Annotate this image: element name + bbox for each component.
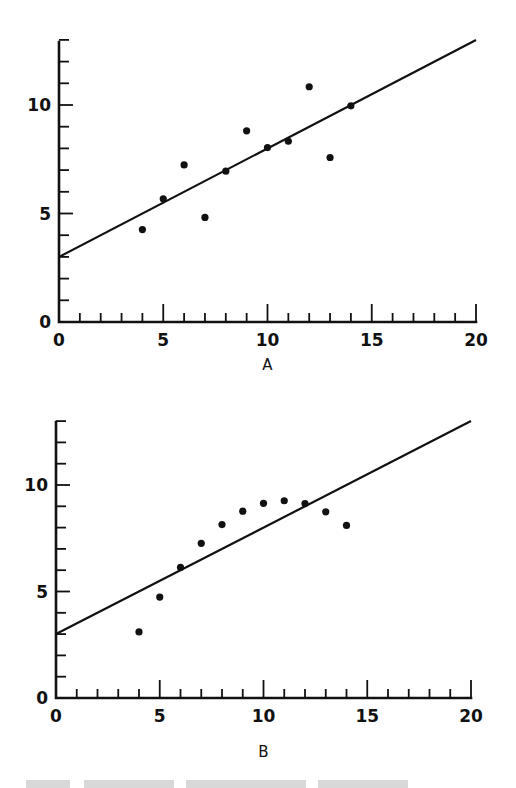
y-tick-label: 0 xyxy=(39,312,51,332)
chart-panel-a: 051015200510A xyxy=(27,40,488,374)
figure: 051015200510A 051015200510B xyxy=(0,0,516,788)
x-tick-label: 5 xyxy=(154,706,166,726)
y-tick-label: 0 xyxy=(36,688,48,708)
x-tick-label: 20 xyxy=(464,330,488,350)
data-point xyxy=(156,593,163,600)
panel-label: A xyxy=(262,356,273,374)
data-point xyxy=(181,161,188,168)
data-point xyxy=(198,540,205,547)
x-tick-label: 20 xyxy=(459,706,483,726)
x-tick-label: 0 xyxy=(53,330,65,350)
chart-panel-b: 051015200510B xyxy=(24,421,483,761)
axes-lines xyxy=(56,422,471,698)
data-point xyxy=(260,500,267,507)
data-point xyxy=(322,508,329,515)
data-point xyxy=(343,522,350,529)
x-tick-label: 15 xyxy=(360,330,384,350)
regression-line xyxy=(56,421,471,634)
x-tick-label: 15 xyxy=(355,706,379,726)
data-point xyxy=(201,214,208,221)
x-tick-label: 10 xyxy=(256,330,280,350)
data-point xyxy=(139,226,146,233)
regression-line xyxy=(59,40,476,257)
y-tick-label: 10 xyxy=(27,95,51,115)
data-point xyxy=(135,628,142,635)
data-point xyxy=(326,154,333,161)
figure-caption-cutoff xyxy=(26,780,408,788)
data-point xyxy=(306,83,313,90)
axes-lines xyxy=(59,42,476,322)
data-point xyxy=(239,508,246,515)
panel-label: B xyxy=(258,743,268,761)
x-tick-label: 10 xyxy=(252,706,276,726)
data-point xyxy=(218,521,225,528)
y-tick-label: 5 xyxy=(39,204,51,224)
y-tick-label: 10 xyxy=(24,475,48,495)
data-point xyxy=(281,497,288,504)
x-tick-label: 0 xyxy=(50,706,62,726)
x-tick-label: 5 xyxy=(157,330,169,350)
data-point xyxy=(243,127,250,134)
y-tick-label: 5 xyxy=(36,582,48,602)
